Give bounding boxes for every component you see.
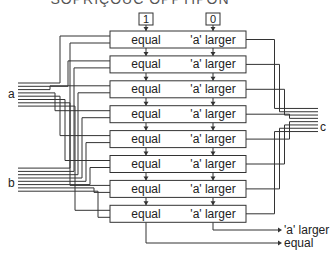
stage-label-a-larger: 'a' larger <box>190 182 235 196</box>
bus-label-b: b <box>8 176 15 190</box>
stage-label-a-larger: 'a' larger <box>190 57 235 71</box>
input-value: 1 <box>143 13 149 25</box>
stage-label-equal: equal <box>131 33 160 47</box>
stage-label-equal: equal <box>131 132 160 146</box>
stage-label-a-larger: 'a' larger <box>190 107 235 121</box>
stage-label-a-larger: 'a' larger <box>190 157 235 171</box>
stage-label-a-larger: 'a' larger <box>190 207 235 221</box>
stage-label-equal: equal <box>131 82 160 96</box>
output-a-larger: 'a' larger <box>284 223 329 237</box>
bus-label-c: c <box>320 120 326 134</box>
comparator-diagram: 10equal'a' largerequal'a' largerequal'a'… <box>0 0 332 255</box>
stage-label-a-larger: 'a' larger <box>190 82 235 96</box>
stage-label-a-larger: 'a' larger <box>190 132 235 146</box>
output-equal: equal <box>284 236 313 250</box>
stage-label-equal: equal <box>131 57 160 71</box>
stage-label-equal: equal <box>131 207 160 221</box>
stage-label-equal: equal <box>131 107 160 121</box>
bus-label-a: a <box>8 87 15 101</box>
stage-label-equal: equal <box>131 157 160 171</box>
input-value: 0 <box>210 13 216 25</box>
stage-label-a-larger: 'a' larger <box>190 33 235 47</box>
stage-label-equal: equal <box>131 182 160 196</box>
